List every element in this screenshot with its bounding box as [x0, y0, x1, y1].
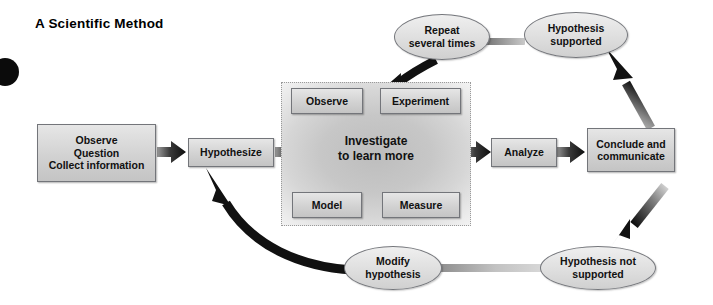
box-hypothesize[interactable]: Hypothesize: [188, 138, 274, 167]
box-observe-question-collect[interactable]: Observe Question Collect information: [37, 124, 156, 182]
box-experiment[interactable]: Experiment: [380, 88, 461, 114]
arrow-observe-to-hypothesize: [157, 141, 186, 163]
arrow-analyze-to-conclude: [556, 141, 585, 163]
ellipse-modify-hypothesis[interactable]: Modify hypothesis: [344, 246, 442, 290]
arrow-conclude-to-notsupported: [606, 186, 665, 254]
ellipse-hypothesis-not-supported[interactable]: Hypothesis not supported: [540, 246, 656, 290]
investigate-label: Investigate to learn more: [296, 134, 456, 164]
arrow-conclude-to-supported: [606, 48, 651, 128]
box-measure[interactable]: Measure: [382, 192, 460, 218]
connector-notsupported-to-modify: [437, 264, 543, 272]
box-conclude-communicate[interactable]: Conclude and communicate: [587, 128, 675, 172]
ellipse-repeat-several-times[interactable]: Repeat several times: [394, 14, 490, 60]
diagram-canvas: A Scientific Method: [0, 0, 713, 305]
box-analyze[interactable]: Analyze: [491, 138, 557, 167]
box-model[interactable]: Model: [292, 192, 362, 218]
box-observe[interactable]: Observe: [291, 88, 363, 114]
ellipse-hypothesis-supported[interactable]: Hypothesis supported: [524, 12, 628, 58]
